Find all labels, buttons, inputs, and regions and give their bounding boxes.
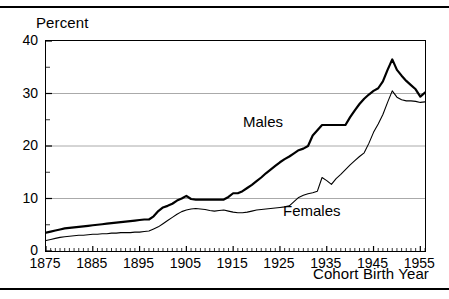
x-tick-label: 1955 (396, 256, 442, 270)
figure-container: Percent Cohort Birth Year 010203040 1875… (0, 0, 449, 299)
top-divider-rule (0, 6, 449, 8)
x-minor-ticks-group (46, 246, 425, 251)
x-tick-label: 1945 (350, 256, 396, 270)
chart-lines-svg (46, 41, 425, 251)
x-tick-label: 1935 (303, 256, 349, 270)
bottom-divider-rule (0, 288, 449, 290)
x-tick-label: 1895 (116, 256, 162, 270)
series-label-males: Males (243, 113, 283, 130)
y-tick-label: 40 (12, 33, 38, 47)
series-line-females (46, 91, 425, 241)
x-tick-label: 1905 (162, 256, 208, 270)
x-tick-label: 1925 (256, 256, 302, 270)
series-label-females: Females (283, 202, 341, 219)
x-tick-label: 1875 (22, 256, 68, 270)
x-tick-label: 1915 (209, 256, 255, 270)
y-tick-label: 30 (12, 86, 38, 100)
y-axis-title: Percent (36, 14, 88, 31)
y-tick-label: 10 (12, 191, 38, 205)
x-tick-label: 1885 (69, 256, 115, 270)
y-tick-label: 20 (12, 138, 38, 152)
plot-area (45, 40, 426, 252)
y-minor-ticks-group (46, 41, 52, 251)
